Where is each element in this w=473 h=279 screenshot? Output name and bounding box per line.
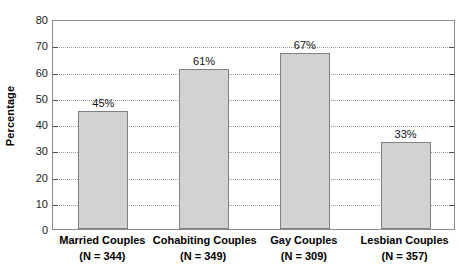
x-axis-category-sample-size: (N = 349) — [153, 249, 254, 265]
y-axis-title-text: Percentage — [4, 86, 16, 146]
y-axis-tick-label: 20 — [24, 172, 48, 183]
y-axis-tick-label: 40 — [24, 120, 48, 131]
y-axis-title: Percentage — [0, 0, 20, 232]
y-axis-tick-label: 60 — [24, 67, 48, 78]
y-axis-tick — [449, 100, 454, 101]
x-axis-category-sample-size: (N = 309) — [254, 249, 355, 265]
x-axis-category: Gay Couples(N = 309) — [254, 233, 355, 265]
bar-value-label: 33% — [366, 129, 446, 140]
y-axis-tick — [53, 205, 58, 206]
y-axis-tick — [449, 47, 454, 48]
y-axis-tick — [53, 100, 58, 101]
x-axis-category-sample-size: (N = 344) — [52, 249, 153, 265]
gridline — [53, 47, 454, 48]
y-axis-tick — [53, 47, 58, 48]
y-axis-tick — [449, 126, 454, 127]
y-axis-tick — [449, 205, 454, 206]
plot-area: 45%61%67%33% — [52, 20, 455, 230]
bar — [280, 53, 330, 229]
y-axis-tick-labels: 80706050403020100 — [22, 0, 48, 279]
y-axis-tick — [53, 126, 58, 127]
x-axis-category-name: Cohabiting Couples — [153, 233, 254, 249]
bar — [78, 111, 128, 229]
y-axis-tick — [53, 74, 58, 75]
x-axis-category: Cohabiting Couples(N = 349) — [153, 233, 254, 265]
y-axis-tick-label: 70 — [24, 41, 48, 52]
bar — [381, 142, 431, 229]
x-axis-category-name: Married Couples — [52, 233, 153, 249]
x-axis-category: Lesbian Couples(N = 357) — [354, 233, 455, 265]
y-axis-tick — [53, 179, 58, 180]
y-axis-tick-label: 0 — [24, 225, 48, 236]
y-axis-tick-label: 50 — [24, 93, 48, 104]
y-axis-tick-label: 80 — [24, 15, 48, 26]
x-axis-category-name: Lesbian Couples — [354, 233, 455, 249]
y-axis-tick — [449, 179, 454, 180]
x-axis-category-labels: Married Couples(N = 344)Cohabiting Coupl… — [52, 233, 455, 279]
y-axis-tick — [53, 152, 58, 153]
y-axis-tick-label: 30 — [24, 146, 48, 157]
y-axis-tick — [449, 74, 454, 75]
x-axis-category-sample-size: (N = 357) — [354, 249, 455, 265]
bar-value-label: 61% — [164, 56, 244, 67]
bar — [179, 69, 229, 229]
x-axis-category-name: Gay Couples — [254, 233, 355, 249]
bar-chart: Percentage 80706050403020100 45%61%67%33… — [0, 0, 473, 279]
x-axis-category: Married Couples(N = 344) — [52, 233, 153, 265]
gridline — [53, 74, 454, 75]
bar-value-label: 67% — [265, 40, 345, 51]
y-axis-tick-label: 10 — [24, 198, 48, 209]
bar-value-label: 45% — [63, 98, 143, 109]
y-axis-tick — [449, 152, 454, 153]
